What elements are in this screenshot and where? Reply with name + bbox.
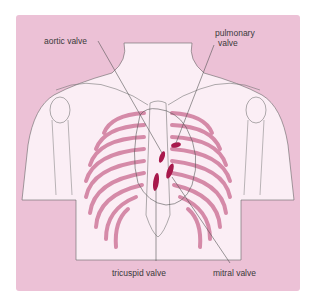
aortic-valve-label: aortic valve [44,37,87,47]
tricuspid-valve-label: tricuspid valve [112,269,166,279]
pulmonary-valve-label-line2: valve [218,39,238,49]
torso-illustration [16,15,300,291]
valve-diagram: aortic valve pulmonary valve tricuspid v… [16,15,300,291]
mitral-valve-label: mitral valve [213,269,256,279]
sternum [146,101,170,237]
